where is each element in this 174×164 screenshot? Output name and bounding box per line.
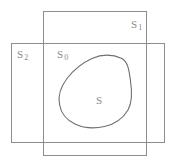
label-s-base: S (96, 94, 103, 106)
label-s0-subscript: 0 (64, 53, 69, 62)
label-s1: S1 (131, 19, 142, 32)
label-s2-base: S (17, 48, 24, 60)
label-s: S (96, 95, 103, 106)
set-diagram-figure: S1 S2 S0 S (0, 0, 174, 164)
label-s2-subscript: 2 (24, 53, 29, 62)
label-s0-base: S (57, 48, 64, 60)
label-s1-subscript: 1 (138, 23, 143, 32)
label-s2: S2 (17, 49, 28, 62)
label-s1-base: S (131, 18, 138, 30)
label-s0: S0 (57, 49, 68, 62)
diagram-canvas (0, 0, 174, 164)
closed-curve-s (59, 55, 131, 127)
